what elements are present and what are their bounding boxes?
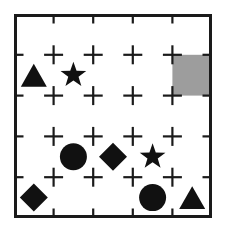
grid-canvas — [0, 0, 226, 234]
highlight-layer — [172, 55, 212, 96]
highlighted-cell[interactable] — [172, 55, 212, 96]
star-r4c4[interactable] — [140, 143, 166, 167]
diamond-r4c3[interactable] — [99, 143, 127, 171]
triangle-r5c5[interactable] — [179, 186, 205, 209]
circle-r4c2[interactable] — [60, 143, 87, 170]
circle-r5c4[interactable] — [139, 184, 166, 211]
gridline-layer — [14, 14, 212, 218]
triangle-r2c1[interactable] — [21, 64, 47, 87]
diamond-r5c1[interactable] — [20, 184, 48, 212]
star-r2c2[interactable] — [61, 62, 87, 86]
shape-grid-puzzle — [0, 0, 226, 234]
grid-border — [16, 16, 211, 217]
grid-outer-border — [16, 16, 211, 217]
